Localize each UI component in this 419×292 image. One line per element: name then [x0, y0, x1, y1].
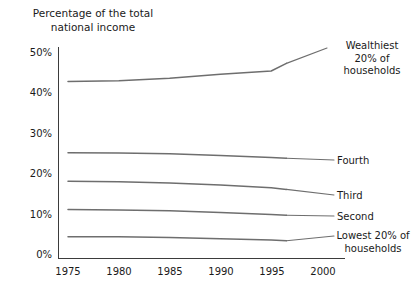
y-tick-30: 30% — [18, 128, 52, 139]
leader-line-3 — [286, 215, 334, 216]
leader-line-0 — [286, 48, 327, 63]
y-tick-20: 20% — [18, 168, 52, 179]
x-tick-1985: 1985 — [150, 266, 190, 277]
series-group — [68, 63, 286, 240]
series-line-2 — [68, 181, 286, 189]
x-tick-2000: 2000 — [303, 266, 343, 277]
y-tick-0: 0% — [18, 249, 52, 260]
x-tick-1980: 1980 — [99, 266, 139, 277]
series-label-third: Third — [337, 190, 363, 203]
series-line-1 — [68, 153, 286, 159]
series-line-3 — [68, 210, 286, 216]
series-label-fourth: Fourth — [337, 155, 369, 168]
series-line-0 — [68, 63, 286, 81]
y-tick-50: 50% — [18, 47, 52, 58]
leader-lines-group — [286, 48, 334, 241]
income-share-line-chart: Percentage of the total national income … — [0, 0, 419, 292]
leader-line-4 — [286, 236, 334, 241]
leader-line-2 — [286, 189, 334, 195]
x-tick-1975: 1975 — [48, 266, 88, 277]
series-line-4 — [68, 237, 286, 241]
x-tick-1990: 1990 — [201, 266, 241, 277]
leader-line-1 — [286, 158, 334, 160]
series-label-second: Second — [337, 211, 374, 224]
series-label-lowest: Lowest 20% of households — [329, 230, 417, 255]
x-tick-1995: 1995 — [252, 266, 292, 277]
y-tick-10: 10% — [18, 209, 52, 220]
y-tick-40: 40% — [18, 87, 52, 98]
series-label-wealthiest: Wealthiest 20% of households — [330, 40, 414, 78]
